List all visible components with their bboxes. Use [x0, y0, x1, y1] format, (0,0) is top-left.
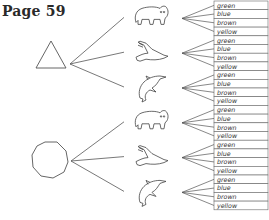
octagon-shape	[32, 142, 68, 178]
color-labels: greenbluebrownyellowgreenbluebrownyellow…	[214, 1, 268, 210]
branch-line	[70, 64, 124, 87]
branch-line	[71, 161, 124, 191]
color-label-yellow: yellow	[216, 202, 238, 210]
dolphin-icon	[139, 180, 166, 206]
color-label-green: green	[217, 37, 235, 45]
color-label-blue: blue	[217, 150, 231, 157]
color-label-blue: blue	[217, 80, 231, 87]
branch-line	[70, 52, 124, 64]
eagle-icon	[136, 146, 168, 166]
dolphin-icon	[139, 76, 166, 102]
color-label-brown: brown	[217, 193, 237, 200]
bear-icon	[135, 111, 168, 129]
color-label-brown: brown	[217, 54, 237, 61]
color-label-green: green	[217, 176, 235, 184]
color-label-blue: blue	[217, 115, 231, 122]
tree-diagram: greenbluebrownyellowgreenbluebrownyellow…	[0, 0, 269, 220]
color-label-green: green	[217, 2, 235, 10]
color-label-yellow: yellow	[216, 63, 238, 71]
eagle-icon	[136, 41, 168, 61]
color-label-brown: brown	[217, 19, 237, 26]
color-label-green: green	[217, 71, 235, 79]
color-label-yellow: yellow	[216, 132, 238, 140]
color-label-brown: brown	[217, 124, 237, 131]
color-label-blue: blue	[217, 10, 231, 17]
color-label-yellow: yellow	[216, 167, 238, 175]
color-label-blue: blue	[217, 184, 231, 191]
triangle-shape	[36, 41, 66, 68]
shape-branches	[70, 17, 124, 191]
color-label-blue: blue	[217, 45, 231, 52]
branch-line	[71, 122, 124, 161]
branch-line	[71, 157, 124, 161]
color-label-brown: brown	[217, 89, 237, 96]
color-label-yellow: yellow	[216, 97, 238, 105]
animal-figures	[135, 6, 168, 206]
color-label-green: green	[217, 106, 235, 114]
bear-icon	[135, 6, 168, 24]
color-label-green: green	[217, 141, 235, 149]
color-fans	[182, 5, 214, 205]
color-label-brown: brown	[217, 158, 237, 165]
color-label-yellow: yellow	[216, 28, 238, 36]
branch-line	[70, 17, 124, 64]
